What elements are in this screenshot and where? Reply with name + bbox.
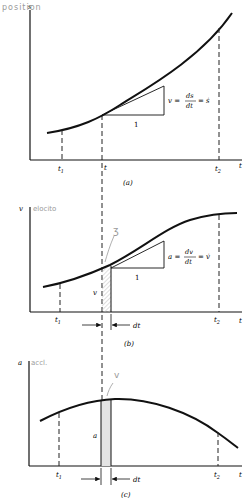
a-slope-den: dt — [186, 102, 193, 110]
c-tick-t1: t1 — [56, 471, 62, 480]
a-run-label: 1 — [134, 121, 138, 129]
c-tick-t2: t2 — [214, 471, 220, 480]
a-slope-num: ds — [186, 92, 194, 100]
c-strip-label: a — [93, 432, 97, 440]
a-handwritten-label: position — [2, 3, 42, 12]
c-handwritten-mark: v — [114, 370, 120, 380]
c-shaded-strip — [101, 400, 111, 466]
c-caption: (c) — [121, 491, 131, 499]
a-caption: (a) — [123, 179, 133, 187]
c-acceleration-curve — [40, 399, 238, 448]
graph-b-velocity: a = dv dt = v̇ 1 v v elocito ʒ t t1 t2 d… — [19, 205, 242, 348]
b-handwritten-label: elocito — [33, 205, 56, 213]
a-tick-t1: t1 — [58, 165, 64, 174]
b-run-label: 1 — [135, 274, 139, 282]
b-tick-t1: t1 — [55, 316, 61, 325]
b-handwritten-arrow — [105, 236, 114, 262]
b-y-label: v — [19, 205, 23, 213]
c-x-label: t — [239, 471, 242, 479]
graph-a-position: v = ds dt = ṡ 1 s position t t1 t t2 (a) — [2, 3, 242, 187]
c-handwritten-label: accl. — [31, 359, 47, 367]
c-handwritten-arrow — [107, 383, 113, 396]
b-tick-t2: t2 — [214, 316, 220, 325]
c-dt-label: dt — [133, 476, 140, 484]
b-slope-triangle — [111, 241, 164, 268]
b-slope-label-rhs: = v̇ — [198, 253, 210, 261]
b-x-label: t — [239, 317, 242, 325]
kinematics-diagram: v = ds dt = ṡ 1 s position t t1 t t2 (a)… — [0, 0, 248, 500]
a-tick-t2: t2 — [215, 165, 221, 174]
b-slope-label-lhs: a = — [168, 253, 180, 261]
b-handwritten-mark: ʒ — [113, 225, 119, 236]
c-y-label: a — [18, 359, 22, 367]
b-shaded-strip — [102, 267, 111, 312]
graph-c-acceleration: a a accl. v t t1 t2 dt (c) — [18, 359, 242, 499]
a-slope-label-lhs: v = — [168, 97, 180, 105]
a-slope-triangle — [102, 86, 164, 115]
a-tick-t: t — [104, 164, 107, 172]
a-slope-label-rhs: = ṡ — [198, 97, 210, 105]
b-strip-label: v — [93, 289, 97, 297]
b-caption: (b) — [124, 340, 134, 348]
a-x-label: t — [239, 162, 242, 170]
b-dt-label: dt — [133, 322, 140, 330]
b-velocity-curve — [43, 213, 237, 287]
b-slope-num: dv — [185, 248, 193, 256]
b-slope-den: dt — [185, 258, 192, 266]
